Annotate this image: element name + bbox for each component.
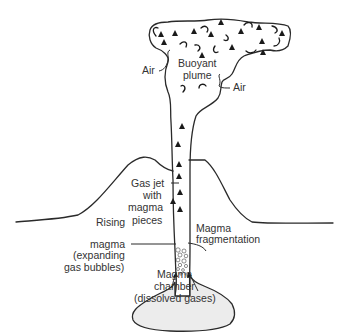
eruption-diagram: Air Buoyant plume Air Gas jet with magma…	[0, 0, 344, 334]
label-air-left: Air	[142, 64, 155, 76]
label-fragmentation-line2: fragmentation	[196, 233, 260, 245]
label-rising-magma-line3: (expanding	[73, 249, 125, 261]
label-gas-jet-line1: Gas jet	[131, 177, 164, 189]
label-gas-jet-line4: pieces	[132, 214, 162, 226]
label-rising-magma-line4: gas bubbles)	[64, 261, 124, 273]
label-chamber-line3: (dissolved gases)	[134, 292, 216, 304]
volcano-outline	[16, 157, 333, 223]
label-rising-magma-line1: Rising	[96, 216, 125, 228]
label-air-right: Air	[233, 81, 246, 93]
label-chamber-line2: chamber	[154, 280, 195, 292]
label-gas-jet-line3: magma	[128, 201, 163, 213]
conduit-plume-outline	[149, 19, 290, 296]
label-buoyant-plume-line2: plume	[183, 69, 212, 81]
label-buoyant-plume-line1: Buoyant	[178, 57, 217, 69]
label-chamber-line1: Magma	[157, 268, 192, 280]
label-gas-jet-line2: with	[142, 189, 162, 201]
